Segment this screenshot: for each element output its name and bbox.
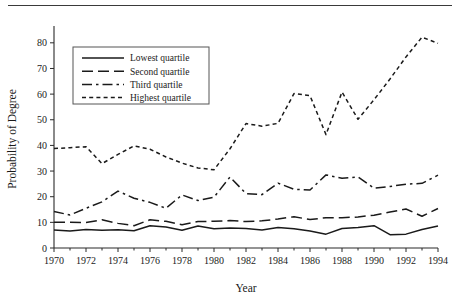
y-tick-label: 20: [37, 191, 47, 202]
x-axis-title: Year: [235, 282, 256, 294]
x-tick-label: 1994: [428, 255, 448, 266]
y-tick-label: 0: [42, 243, 47, 254]
y-tick-label: 70: [37, 63, 47, 74]
series-line-second-quartile: [54, 209, 438, 226]
x-tick-label: 1976: [140, 255, 160, 266]
x-tick-label: 1980: [204, 255, 224, 266]
series-line-lowest-quartile: [54, 226, 438, 235]
x-tick-label: 1988: [332, 255, 352, 266]
figure-container: 0102030405060708019701972197419761978198…: [0, 0, 458, 302]
y-tick-label: 30: [37, 166, 47, 177]
x-tick-label: 1974: [108, 255, 128, 266]
y-tick-label: 60: [37, 89, 47, 100]
x-tick-label: 1990: [364, 255, 384, 266]
y-tick-label: 40: [37, 140, 47, 151]
legend-label-second-quartile: Second quartile: [130, 67, 189, 77]
x-tick-label: 1982: [236, 255, 256, 266]
x-tick-label: 1992: [396, 255, 416, 266]
y-tick-label: 50: [37, 114, 47, 125]
legend-label-third-quartile: Third quartile: [130, 80, 183, 90]
legend-label-highest-quartile: Highest quartile: [130, 93, 191, 103]
x-tick-label: 1986: [300, 255, 320, 266]
x-tick-label: 1970: [44, 255, 64, 266]
x-tick-label: 1984: [268, 255, 288, 266]
x-tick-label: 1978: [172, 255, 192, 266]
x-tick-label: 1972: [76, 255, 96, 266]
series-line-third-quartile: [54, 175, 438, 215]
line-chart: 0102030405060708019701972197419761978198…: [0, 0, 458, 302]
y-tick-label: 80: [37, 37, 47, 48]
y-axis-title: Probability of Degree: [6, 89, 19, 189]
legend-label-lowest-quartile: Lowest quartile: [130, 53, 189, 63]
y-tick-label: 10: [37, 217, 47, 228]
